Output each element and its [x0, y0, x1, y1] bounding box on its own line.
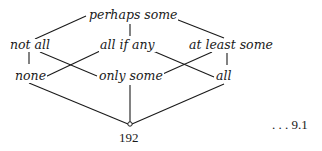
bottom-vertex-node — [128, 122, 132, 126]
edge-none-vertex — [29, 83, 128, 124]
equation-number: . . . 9.1 — [272, 118, 308, 131]
node-all-if-any: all if any — [99, 39, 156, 52]
node-all: all — [215, 70, 232, 83]
node-not-all: not all — [9, 39, 51, 52]
node-none: none — [14, 70, 47, 83]
node-perhaps-some: perhaps some — [88, 9, 178, 22]
edge-all-vertex — [132, 84, 224, 124]
lattice-diagram: perhaps some not all all if any at least… — [0, 0, 322, 151]
bottom-vertex-label: 192 — [119, 131, 139, 144]
node-at-least-some: at least some — [188, 39, 274, 52]
edge-all-if-any-none — [45, 51, 100, 77]
edge-not-all-only-some — [40, 52, 97, 76]
edge-perhaps-some-not-all — [35, 16, 86, 39]
node-only-some: only some — [98, 70, 164, 83]
